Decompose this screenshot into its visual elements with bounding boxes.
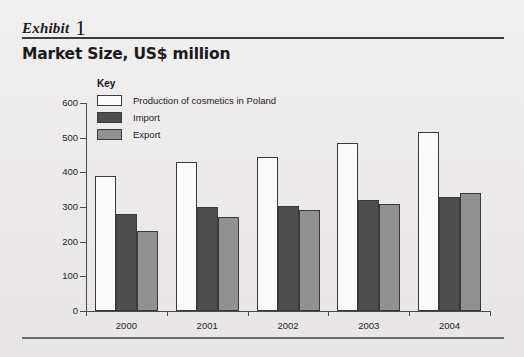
y-axis-label-wrap: 300 bbox=[40, 201, 78, 212]
y-axis-label: 200 bbox=[44, 236, 78, 247]
y-axis-label: 500 bbox=[44, 132, 78, 143]
y-axis-label: 0 bbox=[44, 305, 78, 316]
legend-label-export: Export bbox=[133, 129, 160, 140]
legend-label-import: Import bbox=[133, 112, 160, 123]
bar-production-2000 bbox=[95, 176, 116, 311]
y-tick bbox=[80, 103, 86, 104]
x-tick bbox=[248, 311, 249, 316]
bar-chart-plot: 0100200300400500600 20002001200220032004 bbox=[0, 0, 524, 357]
bar-export-2004 bbox=[460, 193, 481, 311]
legend: Key Production of cosmetics in PolandImp… bbox=[97, 78, 327, 144]
y-axis-label: 600 bbox=[44, 97, 78, 108]
y-tick bbox=[80, 242, 86, 243]
bar-import-2003 bbox=[358, 200, 379, 311]
x-tick bbox=[490, 311, 491, 316]
x-axis-label-2001: 2001 bbox=[177, 320, 237, 331]
bar-production-2003 bbox=[337, 143, 358, 311]
bar-import-2001 bbox=[197, 207, 218, 311]
bar-production-2004 bbox=[418, 132, 439, 311]
y-axis-label-wrap: 500 bbox=[40, 132, 78, 143]
bar-export-2002 bbox=[299, 210, 320, 311]
bar-import-2002 bbox=[278, 206, 299, 311]
y-tick bbox=[80, 172, 86, 173]
x-tick bbox=[167, 311, 168, 316]
y-axis-label: 100 bbox=[44, 270, 78, 281]
y-tick bbox=[80, 276, 86, 277]
x-tick bbox=[86, 311, 87, 316]
y-tick bbox=[80, 138, 86, 139]
legend-title: Key bbox=[97, 78, 327, 89]
y-axis-label: 300 bbox=[44, 201, 78, 212]
bar-production-2002 bbox=[257, 157, 278, 311]
legend-swatch-production bbox=[97, 95, 122, 106]
x-tick bbox=[409, 311, 410, 316]
y-axis-label-wrap: 100 bbox=[40, 270, 78, 281]
x-axis-label-2000: 2000 bbox=[96, 320, 156, 331]
footer-divider bbox=[22, 337, 504, 339]
bar-production-2001 bbox=[176, 162, 197, 311]
legend-swatch-import bbox=[97, 112, 122, 123]
legend-swatch-export bbox=[97, 129, 122, 140]
x-tick bbox=[328, 311, 329, 316]
bar-import-2004 bbox=[439, 197, 460, 311]
y-tick bbox=[80, 207, 86, 208]
y-axis-label: 400 bbox=[44, 166, 78, 177]
legend-item-production: Production of cosmetics in Poland bbox=[97, 93, 327, 108]
legend-label-production: Production of cosmetics in Poland bbox=[133, 95, 276, 106]
bar-export-2003 bbox=[379, 204, 400, 311]
x-axis-label-2003: 2003 bbox=[339, 320, 399, 331]
y-axis-label-wrap: 400 bbox=[40, 166, 78, 177]
bar-export-2001 bbox=[218, 217, 239, 311]
y-axis-label-wrap: 600 bbox=[40, 97, 78, 108]
exhibit-figure: Exhibit1 Market Size, US$ million 010020… bbox=[0, 0, 524, 357]
bar-import-2000 bbox=[116, 214, 137, 311]
bar-export-2000 bbox=[137, 231, 158, 311]
y-axis-label-wrap: 0 bbox=[40, 305, 78, 316]
x-axis-label-2002: 2002 bbox=[258, 320, 318, 331]
x-axis-line bbox=[86, 311, 490, 312]
legend-item-export: Export bbox=[97, 127, 327, 142]
y-axis-label-wrap: 200 bbox=[40, 236, 78, 247]
x-axis-label-2004: 2004 bbox=[420, 320, 480, 331]
y-axis-line bbox=[86, 103, 87, 312]
legend-item-import: Import bbox=[97, 110, 327, 125]
legend-items: Production of cosmetics in PolandImportE… bbox=[97, 93, 327, 142]
